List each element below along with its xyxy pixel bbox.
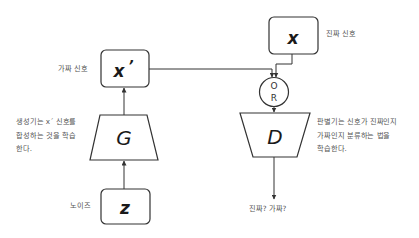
fake-signal-node: x ’ <box>101 50 149 87</box>
generator-description: 생성기는 x´ 신호를 합성하는 것을 학습 한다. <box>16 115 76 156</box>
discriminator-description-line-1: 판별기는 신호가 진짜인지 <box>317 115 397 129</box>
output-label-text: 진짜? 가짜? <box>249 204 286 213</box>
or-gate-node: O R <box>260 78 289 107</box>
noise-node: z <box>101 189 150 224</box>
edge-fake-to-or <box>149 69 272 77</box>
noise-label-text: 노이즈 <box>70 201 91 210</box>
generator-symbol: G <box>116 126 132 150</box>
generator-description-line-2: 합성하는 것을 학습 <box>16 129 76 143</box>
generator-node: G <box>90 115 158 160</box>
noise-symbol: z <box>119 198 130 218</box>
generator-description-line-3: 한다. <box>16 142 76 156</box>
real-signal-label: 진짜 신호 <box>326 27 356 41</box>
fake-signal-label: 가짜 신호 <box>58 62 88 76</box>
real-signal-symbol: x <box>287 28 300 48</box>
output-label: 진짜? 가짜? <box>249 202 286 216</box>
real-signal-node: x <box>269 17 318 54</box>
noise-label: 노이즈 <box>70 199 91 213</box>
discriminator-node: D <box>240 113 310 157</box>
generator-description-line-1: 생성기는 x´ 신호를 <box>16 115 76 129</box>
discriminator-description-line-2: 가짜인지 분류하는 법을 <box>317 129 397 143</box>
or-gate-label-r: R <box>271 93 277 103</box>
or-gate-label-o: O <box>270 81 277 91</box>
fake-signal-label-text: 가짜 신호 <box>58 64 88 73</box>
discriminator-description: 판별기는 신호가 진짜인지 가짜인지 분류하는 법을 학습한다. <box>317 115 397 156</box>
fake-signal-symbol: x <box>113 61 126 81</box>
discriminator-symbol: D <box>267 125 282 149</box>
edge-real-to-or <box>276 54 292 77</box>
discriminator-description-line-3: 학습한다. <box>317 142 397 156</box>
prime-mark: ’ <box>128 57 133 73</box>
real-signal-label-text: 진짜 신호 <box>326 29 356 38</box>
